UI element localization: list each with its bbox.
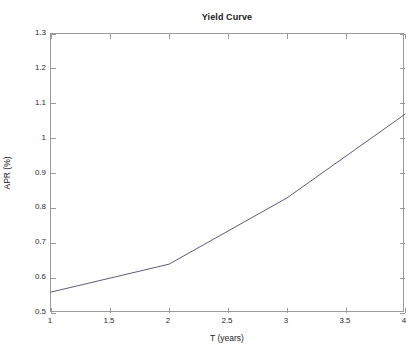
axis-tick-marks	[51, 34, 405, 313]
y-tick-label: 1.3	[35, 29, 46, 37]
x-tick-label: 3	[284, 317, 288, 325]
figure-canvas: Yield Curve APR (%) 0.50.60.70.80.911.11…	[0, 0, 416, 359]
x-axis-tick-labels: 11.522.533.54	[50, 317, 404, 329]
x-tick-label: 4	[402, 317, 406, 325]
y-axis-tick-labels: 0.50.60.70.80.911.11.21.3	[10, 33, 46, 312]
plot-svg	[51, 34, 405, 313]
x-tick-label: 3.5	[339, 317, 350, 325]
plot-area	[50, 33, 404, 312]
x-tick-label: 2.5	[221, 317, 232, 325]
x-tick-label: 1	[48, 317, 52, 325]
y-tick-label: 1.1	[35, 99, 46, 107]
y-tick-label: 0.6	[35, 273, 46, 281]
y-tick-label: 0.9	[35, 169, 46, 177]
x-tick-label: 1.5	[103, 317, 114, 325]
y-tick-label: 1	[42, 134, 46, 142]
x-axis-label: T (years)	[50, 333, 404, 343]
y-tick-label: 0.5	[35, 308, 46, 316]
x-tick-label: 2	[166, 317, 170, 325]
data-series-line	[51, 114, 405, 292]
data-series-group	[51, 114, 405, 292]
y-tick-label: 1.2	[35, 64, 46, 72]
y-tick-label: 0.7	[35, 238, 46, 246]
y-tick-label: 0.8	[35, 203, 46, 211]
chart-title: Yield Curve	[50, 12, 404, 23]
